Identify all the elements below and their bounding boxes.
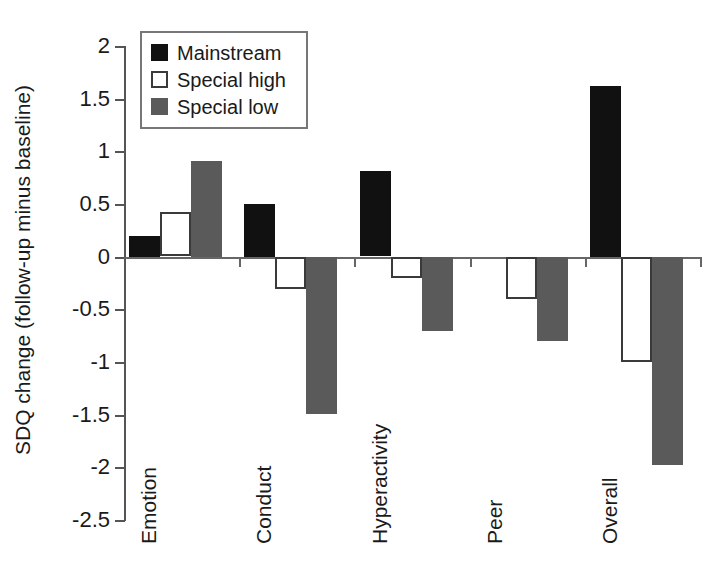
x-axis-category-label: Peer <box>484 500 505 544</box>
y-axis-tick-mark <box>115 467 125 469</box>
legend: Mainstream Special high Special low <box>140 31 308 129</box>
bar-special-high-peer <box>506 257 537 299</box>
x-axis-category-label: Emotion <box>138 467 159 544</box>
y-axis-tick-label: -2.5 <box>52 509 110 531</box>
y-axis-tick-label: -0.5 <box>52 298 110 320</box>
y-axis-line <box>124 46 126 521</box>
bar-mainstream-conduct <box>244 204 275 257</box>
y-axis-tick-label: 0 <box>52 246 110 268</box>
bar-chart: SDQ change (follow-up minus baseline) 21… <box>0 0 712 564</box>
bar-special-low-conduct <box>306 257 337 414</box>
bar-special-low-overall <box>652 257 683 465</box>
x-axis-category-label: Hyperactivity <box>369 424 390 544</box>
bar-special-low-peer <box>537 257 568 341</box>
legend-item-special-low: Special low <box>151 93 297 120</box>
y-axis-tick-mark <box>115 520 125 522</box>
x-axis-category-label: Overall <box>599 477 620 544</box>
legend-label-special-high: Special high <box>177 70 286 90</box>
bar-mainstream-hyperactivity <box>360 171 391 256</box>
y-axis-tick-label: -1.5 <box>52 404 110 426</box>
bar-special-high-emotion <box>160 212 191 256</box>
x-axis-tick-mark <box>585 257 587 267</box>
bar-special-high-conduct <box>275 257 306 289</box>
y-axis-tick-mark <box>115 204 125 206</box>
y-axis-tick-mark <box>115 415 125 417</box>
y-axis-title: SDQ change (follow-up minus baseline) <box>6 10 40 530</box>
y-axis-tick-label: 0.5 <box>52 193 110 215</box>
legend-label-special-low: Special low <box>177 97 278 117</box>
x-axis-tick-mark <box>700 257 702 267</box>
legend-label-mainstream: Mainstream <box>177 43 281 63</box>
x-axis-tick-mark <box>470 257 472 267</box>
y-axis-tick-mark <box>115 362 125 364</box>
y-axis-tick-label: 2 <box>52 35 110 57</box>
bar-special-high-overall <box>621 257 652 362</box>
bar-special-low-emotion <box>191 161 222 257</box>
y-axis-tick-mark <box>115 151 125 153</box>
x-axis-tick-mark <box>239 257 241 267</box>
x-axis-tick-mark <box>354 257 356 267</box>
bar-mainstream-emotion <box>129 236 160 257</box>
legend-swatch-icon-mainstream <box>151 44 168 61</box>
legend-item-mainstream: Mainstream <box>151 39 297 66</box>
y-axis-tick-label: -1 <box>52 351 110 373</box>
bar-special-low-hyperactivity <box>422 257 453 331</box>
y-axis-tick-mark <box>115 99 125 101</box>
y-axis-tick-label: -2 <box>52 456 110 478</box>
y-axis-tick-mark <box>115 309 125 311</box>
legend-item-special-high: Special high <box>151 66 297 93</box>
legend-swatch-icon-special-low <box>151 98 168 115</box>
bar-mainstream-overall <box>590 86 621 257</box>
x-axis-category-label: Conduct <box>253 466 274 544</box>
y-axis-tick-label: 1 <box>52 140 110 162</box>
bar-special-high-hyperactivity <box>391 257 422 278</box>
y-axis-tick-label: 1.5 <box>52 88 110 110</box>
legend-swatch-icon-special-high <box>151 71 168 88</box>
y-axis-tick-mark <box>115 46 125 48</box>
